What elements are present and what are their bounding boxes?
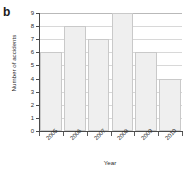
bar-chart-figure: b Number of accidents 0123456789 2005200… bbox=[0, 0, 187, 173]
x-tick-mark bbox=[134, 132, 135, 136]
x-tick-mark bbox=[39, 132, 40, 136]
x-tick-mark bbox=[87, 132, 88, 136]
y-tick-mark bbox=[36, 65, 39, 66]
bar bbox=[159, 79, 181, 131]
y-tick-mark bbox=[36, 118, 39, 119]
y-tick-label: 5 bbox=[0, 62, 34, 68]
y-tick-mark bbox=[36, 39, 39, 40]
bar bbox=[88, 39, 110, 131]
y-tick-label: 2 bbox=[0, 102, 34, 108]
x-tick-mark bbox=[63, 132, 64, 136]
bar bbox=[112, 13, 134, 131]
y-tick-label: 1 bbox=[0, 115, 34, 121]
bar bbox=[64, 26, 86, 131]
y-tick-label: 3 bbox=[0, 89, 34, 95]
bar bbox=[135, 52, 157, 131]
y-tick-label: 4 bbox=[0, 76, 34, 82]
y-tick-mark bbox=[36, 105, 39, 106]
x-tick-mark bbox=[158, 132, 159, 136]
y-tick-mark bbox=[36, 79, 39, 80]
y-tick-mark bbox=[36, 52, 39, 53]
y-tick-mark bbox=[36, 92, 39, 93]
y-tick-mark bbox=[36, 13, 39, 14]
y-tick-label: 7 bbox=[0, 36, 34, 42]
bars-layer bbox=[39, 13, 182, 131]
bar bbox=[40, 52, 62, 131]
y-tick-label: 8 bbox=[0, 23, 34, 29]
y-tick-mark bbox=[36, 26, 39, 27]
y-tick-label: 6 bbox=[0, 49, 34, 55]
y-axis-line bbox=[39, 13, 40, 132]
x-tick-mark bbox=[182, 132, 183, 136]
y-tick-label: 9 bbox=[0, 10, 34, 16]
x-tick-mark bbox=[111, 132, 112, 136]
y-tick-label: 0 bbox=[0, 128, 34, 134]
x-axis-title: Year bbox=[38, 160, 182, 166]
